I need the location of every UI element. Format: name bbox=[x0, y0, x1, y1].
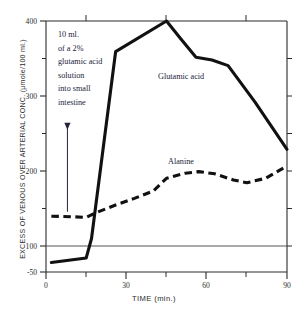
infusion-note-line: glutamic acid bbox=[58, 55, 130, 69]
series-label-glutamic-acid: Glutamic acid bbox=[158, 72, 204, 81]
infusion-note: 10 ml. of a 2% glutamic acid solution in… bbox=[58, 28, 130, 110]
infusion-note-line: intestine bbox=[58, 96, 130, 110]
x-tick-label: 30 bbox=[122, 281, 130, 290]
infusion-note-line: 10 ml. bbox=[58, 28, 130, 42]
infusion-note-line: solution bbox=[58, 69, 130, 83]
infusion-arrow bbox=[64, 123, 70, 212]
series-label-alanine: Alanine bbox=[168, 157, 194, 166]
x-minor-ticks bbox=[86, 272, 246, 277]
x-tick-label: 60 bbox=[202, 281, 210, 290]
y-tick-label: -50 bbox=[27, 268, 37, 277]
y-minor-ticks bbox=[42, 59, 46, 209]
x-tick-label: 0 bbox=[44, 281, 48, 290]
y-tick-label: 100 bbox=[26, 242, 38, 251]
plot-area: 400 300 200 100 -50 0 30 60 90 bbox=[0, 0, 308, 316]
x-tick-labels: 0 30 60 90 bbox=[44, 281, 291, 290]
y-tick-labels: 400 300 200 100 -50 bbox=[26, 17, 38, 277]
x-tick-label: 90 bbox=[283, 281, 291, 290]
x-axis-label: TIME (min.) bbox=[0, 294, 308, 303]
infusion-note-line: into small bbox=[58, 82, 130, 96]
y-right-ticks bbox=[287, 59, 292, 247]
infusion-note-line: of a 2% bbox=[58, 42, 130, 56]
y-tick-label: 400 bbox=[26, 17, 38, 26]
y-tick-label: 300 bbox=[26, 92, 38, 101]
y-axis-label: EXCESS OF VENOUS OVER ARTERIAL CONC. (μm… bbox=[19, 14, 27, 284]
series-alanine bbox=[51, 166, 287, 217]
chart-figure: 400 300 200 100 -50 0 30 60 90 EXCESS OF… bbox=[0, 0, 308, 316]
y-tick-label: 200 bbox=[26, 167, 38, 176]
